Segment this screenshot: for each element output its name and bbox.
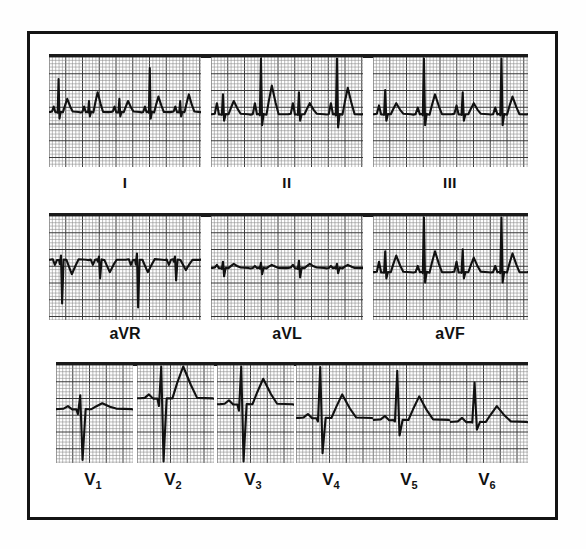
lead-label-text: V bbox=[164, 470, 175, 489]
lead-panel-v6 bbox=[450, 365, 528, 463]
lead-label-text: aVF bbox=[435, 325, 464, 342]
ecg-grid-v2 bbox=[137, 365, 214, 463]
lead-panel-iii bbox=[373, 57, 528, 167]
lead-label-text: V bbox=[400, 470, 411, 489]
lead-caption-ii: II bbox=[247, 174, 327, 191]
lead-panel-v4 bbox=[296, 365, 373, 463]
ecg-grid-avr bbox=[49, 216, 201, 320]
lead-panel-avf bbox=[373, 216, 528, 320]
lead-caption-avf: aVF bbox=[410, 325, 490, 343]
lead-caption-v5: V5 bbox=[369, 470, 449, 490]
ecg-trace-v3 bbox=[217, 367, 294, 462]
lead-panel-v3 bbox=[217, 365, 294, 463]
lead-label-text: I bbox=[123, 174, 128, 191]
lead-label-text: V bbox=[478, 470, 489, 489]
lead-panel-v1 bbox=[56, 365, 133, 463]
lead-label-text: V bbox=[84, 470, 95, 489]
lead-label-text: aVR bbox=[109, 325, 140, 342]
lead-caption-v2: V2 bbox=[133, 470, 213, 490]
lead-label-subscript: 4 bbox=[334, 479, 340, 491]
ecg-trace-v4 bbox=[296, 367, 373, 453]
lead-caption-v1: V1 bbox=[53, 470, 133, 490]
lead-label-subscript: 3 bbox=[256, 479, 262, 491]
lead-label-subscript: 2 bbox=[176, 479, 182, 491]
ecg-trace-i bbox=[49, 68, 201, 119]
ecg-trace-avl bbox=[211, 261, 363, 278]
lead-label-text: V bbox=[322, 470, 333, 489]
ecg-grid-v6 bbox=[450, 365, 528, 463]
lead-caption-v4: V4 bbox=[291, 470, 371, 490]
lead-caption-avr: aVR bbox=[85, 325, 165, 343]
lead-panel-i bbox=[49, 57, 201, 167]
ecg-figure: IIIIIIaVRaVLaVFV1V2V3V4V5V6 bbox=[0, 0, 586, 549]
lead-label-text: aVL bbox=[272, 325, 301, 342]
lead-caption-iii: III bbox=[410, 174, 490, 191]
lead-caption-avl: aVL bbox=[247, 325, 327, 343]
lead-panel-avl bbox=[211, 216, 363, 320]
lead-label-text: V bbox=[244, 470, 255, 489]
lead-label-subscript: 1 bbox=[96, 479, 102, 491]
lead-panel-avr bbox=[49, 216, 201, 320]
lead-label-text: II bbox=[282, 174, 291, 191]
lead-label-subscript: 6 bbox=[490, 479, 496, 491]
lead-panel-v5 bbox=[373, 365, 450, 463]
ecg-trace-v6 bbox=[450, 383, 528, 430]
ecg-trace-v5 bbox=[373, 371, 450, 436]
lead-label-subscript: 5 bbox=[412, 479, 418, 491]
ecg-grid-iii bbox=[373, 57, 528, 167]
lead-caption-v3: V3 bbox=[213, 470, 293, 490]
ecg-grid-avf bbox=[373, 216, 528, 320]
lead-caption-i: I bbox=[85, 174, 165, 191]
ecg-grid-v1 bbox=[56, 365, 133, 463]
lead-label-text: III bbox=[443, 174, 457, 191]
ecg-grid-ii bbox=[211, 57, 363, 167]
lead-panel-v2 bbox=[137, 365, 214, 463]
ecg-grid-v3 bbox=[217, 365, 294, 463]
lead-caption-v6: V6 bbox=[447, 470, 527, 490]
ecg-trace-v2 bbox=[137, 367, 214, 462]
lead-panel-ii bbox=[211, 57, 363, 167]
